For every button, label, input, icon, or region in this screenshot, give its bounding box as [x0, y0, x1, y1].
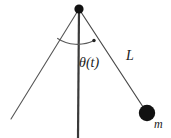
pendulum-bob-marker	[139, 105, 155, 121]
vertical-reference-line	[78, 9, 79, 138]
pendulum-diagram: θ(t) L m	[0, 0, 171, 138]
angle-arc	[57, 38, 94, 44]
pivot-point-marker	[74, 4, 83, 13]
arc-endpoint-dot	[92, 39, 95, 42]
mass-label: m	[154, 118, 163, 130]
left-swing-extreme-line	[11, 9, 79, 119]
angle-label: θ(t)	[79, 56, 99, 70]
length-label: L	[126, 49, 134, 63]
